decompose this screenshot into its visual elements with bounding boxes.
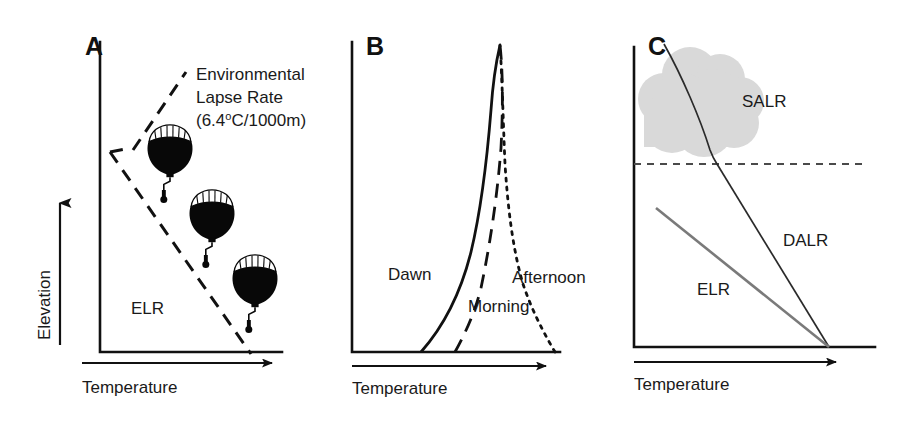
panel-c-dalr-label: DALR [783,231,828,250]
environmental-lapse-rate-line3: (6.4oC/1000m) [196,110,306,130]
elr-lower-dash [110,152,251,354]
balloon-low [233,255,278,333]
panel-c-elr-label: ELR [697,280,730,299]
panel-b-x-axis-label: Temperature [352,379,447,398]
environmental-lapse-rate-line2: Lapse Rate [196,88,283,107]
curve-label-afternoon: Afternoon [512,268,586,287]
panel-b-letter: B [366,32,384,60]
panel-a-elr-label: ELR [131,299,164,318]
curve-elr [656,208,829,347]
lapse-rate-figure: A Elevation Temperature Environmental La… [0,0,907,423]
panel-b: B Temperature Dawn Morning Afternoon [352,32,586,398]
panel-c-x-axis-label: Temperature [634,375,729,394]
panel-a-y-axis-label: Elevation [35,270,54,340]
panel-a: A Elevation Temperature Environmental La… [35,32,306,397]
panel-c-letter: C [648,32,666,60]
panel-c: C Temperature SALR DALR ELR [634,32,875,394]
elr-notch-tip [110,148,131,152]
balloon-high [148,125,193,203]
figure-container: A Elevation Temperature Environmental La… [0,0,907,423]
curve-dalr [717,164,829,347]
balloon-mid [190,190,235,268]
environmental-lapse-rate-line1: Environmental [196,65,305,84]
curve-label-dawn: Dawn [388,265,431,284]
curve-label-morning: Morning [468,297,529,316]
panel-c-salr-label: SALR [742,92,786,111]
panel-a-x-axis-label: Temperature [82,378,177,397]
